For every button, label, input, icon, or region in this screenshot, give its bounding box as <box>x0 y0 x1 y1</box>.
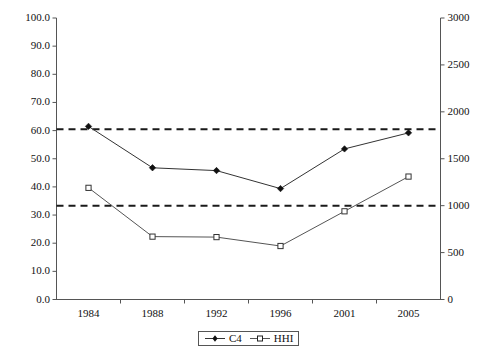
right-tick-label: 2500 <box>448 59 492 70</box>
x-tick-label: 1992 <box>187 308 247 319</box>
data-point-c4 <box>341 146 347 152</box>
x-tick-label: 2001 <box>315 308 375 319</box>
right-tick-label: 2000 <box>448 106 492 117</box>
x-axis-ticks <box>121 300 377 304</box>
right-tick-label: 1500 <box>448 153 492 164</box>
left-tick-label: 70.0 <box>2 96 50 107</box>
chart-canvas <box>0 0 496 359</box>
series-line-hhi <box>89 177 409 246</box>
left-tick-label: 50.0 <box>2 153 50 164</box>
legend-label-c4: C4 <box>229 333 242 344</box>
data-point-hhi <box>214 235 219 240</box>
data-point-c4 <box>149 165 155 171</box>
left-tick-label: 40.0 <box>2 181 50 192</box>
left-tick-label: 30.0 <box>2 209 50 220</box>
data-point-hhi <box>278 243 283 248</box>
data-point-hhi <box>342 209 347 214</box>
x-tick-label: 1996 <box>251 308 311 319</box>
x-tick-label: 2005 <box>379 308 439 319</box>
data-point-hhi <box>86 185 91 190</box>
legend-item-c4: C4 <box>204 333 242 344</box>
left-tick-label: 90.0 <box>2 40 50 51</box>
right-tick-label: 500 <box>448 247 492 258</box>
right-tick-label: 3000 <box>448 12 492 23</box>
x-tick-label: 1988 <box>123 308 183 319</box>
series-lines <box>89 126 409 246</box>
series-markers <box>85 123 411 248</box>
right-tick-label: 0 <box>448 294 492 305</box>
reference-lines <box>57 129 441 205</box>
legend-label-hhi: HHI <box>274 333 294 344</box>
data-point-hhi <box>406 174 411 179</box>
right-axis-ticks <box>441 18 445 300</box>
left-tick-label: 80.0 <box>2 68 50 79</box>
axis-lines <box>57 18 442 300</box>
x-tick-label: 1984 <box>59 308 119 319</box>
left-tick-label: 0.0 <box>2 294 50 305</box>
data-point-c4 <box>405 130 411 136</box>
legend-marker-hhi-icon <box>249 333 271 344</box>
data-point-c4 <box>277 185 283 191</box>
legend-item-hhi: HHI <box>249 333 294 344</box>
left-tick-label: 100.0 <box>2 12 50 23</box>
chart-legend: C4 HHI <box>198 331 299 346</box>
left-tick-label: 20.0 <box>2 237 50 248</box>
left-tick-label: 10.0 <box>2 265 50 276</box>
right-tick-label: 1000 <box>448 200 492 211</box>
series-line-c4 <box>89 126 409 188</box>
left-tick-label: 60.0 <box>2 125 50 136</box>
chart-figure: 0.010.020.030.040.050.060.070.080.090.01… <box>0 0 496 359</box>
left-axis-ticks <box>53 18 57 300</box>
data-point-c4 <box>213 167 219 173</box>
data-point-hhi <box>150 234 155 239</box>
legend-marker-c4-icon <box>204 333 226 344</box>
